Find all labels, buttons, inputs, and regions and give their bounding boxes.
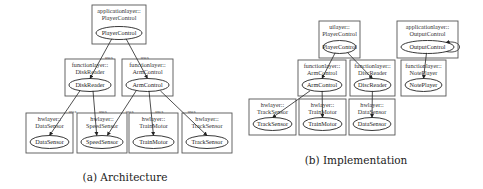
cluster-namespace-label: applicationlayer:: [406, 23, 450, 30]
node-label: DataSensor [358, 120, 387, 127]
cluster-player-control: uilayer::PlayerControlPlayerControl [319, 21, 360, 58]
cluster-title-label: DiscReader [358, 69, 387, 76]
cluster-title-label: ArmControl [307, 69, 338, 76]
cluster-title-label: ArmControl [132, 68, 163, 75]
cluster-namespace-label: functionlayer:: [129, 61, 166, 68]
caption-implementation: (b) Implementation [305, 154, 408, 166]
cluster-namespace-label: uilayer:: [329, 23, 350, 30]
cluster-namespace-label: functionlayer:: [405, 62, 442, 69]
edge-label: uses [69, 109, 77, 114]
edge-label: uses [99, 109, 107, 114]
edge-label: uses [188, 109, 196, 114]
node-label: TrainMotor [308, 120, 337, 127]
node-label: ArmControl [132, 81, 163, 88]
node-label: ArmControl [307, 81, 338, 88]
edge-label: uses [126, 109, 134, 114]
clusters-layer: applicationlayer::PlayerControlPlayerCon… [26, 5, 458, 153]
cluster-track-sensor: hwlayer::TrackSensorTrackSensor [249, 99, 296, 135]
caption-architecture: (a) Architecture [83, 171, 168, 183]
node-label: NotePlayer [410, 81, 438, 88]
cluster-namespace-label: hwlayer:: [195, 115, 219, 122]
cluster-arm-control: functionlayer::ArmControlArmControl [122, 59, 173, 96]
cluster-namespace-label: functionlayer:: [72, 61, 109, 68]
edge-label: uses [105, 55, 113, 60]
cluster-speed-sensor: hwlayer::SpeedSensorSpeedSensor [77, 113, 127, 153]
node-label: TrackSensor [191, 138, 222, 145]
cluster-namespace-label: hwlayer:: [90, 115, 114, 122]
cluster-disk-reader: functionlayer::DiskReaderDiskReader [65, 59, 115, 96]
node-label: TrackSensor [257, 120, 288, 127]
node-label: SpeedSensor [86, 138, 118, 145]
cluster-namespace-label: hwlayer:: [38, 115, 62, 122]
cluster-title-label: DataSensor [35, 122, 64, 129]
cluster-title-label: NotePlayer [410, 69, 438, 76]
cluster-namespace-label: applicationlayer:: [97, 7, 141, 14]
cluster-namespace-label: hwlayer:: [261, 101, 285, 108]
node-label: DiscReader [358, 81, 387, 88]
cluster-output-control: applicationlayer::OutputControlOutputCon… [397, 21, 458, 58]
node-label: PlayerControl [102, 29, 137, 36]
edge-label: uses [155, 109, 163, 114]
component-diagram-canvas: applicationlayer::PlayerControlPlayerCon… [0, 0, 483, 189]
cluster-data-sensor: hwlayer::DataSensorDataSensor [26, 113, 73, 153]
cluster-namespace-label: hwlayer:: [142, 115, 166, 122]
cluster-title-label: PlayerControl [322, 30, 357, 37]
cluster-title-label: OutputControl [409, 30, 445, 37]
node-label: TrainMotor [139, 138, 168, 145]
cluster-title-label: TrackSensor [257, 108, 288, 115]
edge-label: uses [141, 55, 149, 60]
cluster-namespace-label: functionlayer:: [304, 62, 341, 69]
cluster-title-label: DiskReader [75, 68, 104, 75]
node-label: DataSensor [35, 138, 64, 145]
node-label: DiskReader [75, 81, 104, 88]
node-label: PlayerControl [322, 43, 357, 50]
cluster-title-label: PlayerControl [102, 14, 137, 21]
node-label: OutputControl [409, 43, 445, 50]
cluster-title-label: SpeedSensor [86, 122, 118, 129]
cluster-player-control: applicationlayer::PlayerControlPlayerCon… [92, 5, 146, 44]
cluster-title-label: TrainMotor [139, 122, 168, 129]
